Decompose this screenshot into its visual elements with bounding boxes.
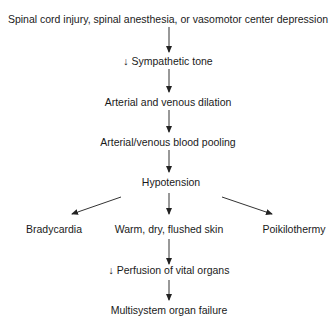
node-organ-failure: Multisystem organ failure [111,304,228,316]
node-sympathetic-tone: ↓ Sympathetic tone [123,55,212,67]
node-skin: Warm, dry, flushed skin [115,223,224,235]
node-bradycardia: Bradycardia [26,223,82,235]
arrow-hypotension-to-poikilothermy [222,197,272,214]
node-blood-pooling: Arterial/venous blood pooling [100,136,235,148]
node-poikilothermy: Poikilothermy [262,223,325,235]
node-cause: Spinal cord injury, spinal anesthesia, o… [8,13,328,25]
arrows-layer [0,0,336,329]
node-dilation: Arterial and venous dilation [105,96,232,108]
node-perfusion: ↓ Perfusion of vital organs [109,264,230,276]
arrow-hypotension-to-bradycardia [72,197,121,214]
node-hypotension: Hypotension [142,176,200,188]
